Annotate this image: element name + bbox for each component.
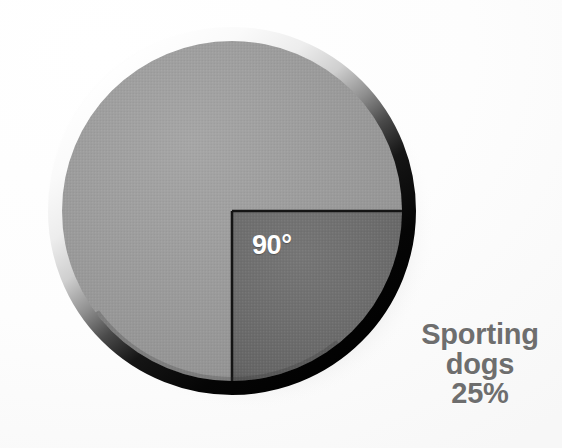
- slice-callout-label: Sporting dogs 25%: [398, 320, 562, 409]
- pie-graphic: [44, 22, 432, 414]
- pie-chart-figure: 90° Sporting dogs 25%: [0, 0, 562, 448]
- callout-line-percent: 25%: [398, 379, 562, 409]
- callout-line-category: Sporting: [398, 320, 562, 350]
- angle-label: 90°: [252, 230, 292, 261]
- callout-line-category-cont: dogs: [398, 350, 562, 380]
